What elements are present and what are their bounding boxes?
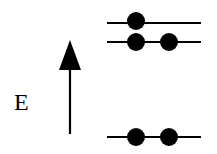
electron-dot: [160, 33, 178, 51]
electron-dot: [160, 128, 178, 146]
energy-axis-label: E: [14, 89, 29, 115]
electron-dot: [127, 128, 145, 146]
energy-arrow-head-icon: [59, 40, 81, 70]
level-bottom: [107, 128, 201, 146]
electron-dot: [127, 12, 145, 30]
energy-level-diagram: E: [0, 0, 217, 154]
level-top: [107, 12, 201, 30]
electron-dot: [127, 33, 145, 51]
energy-axis: E: [14, 40, 81, 134]
level-middle: [107, 33, 201, 51]
